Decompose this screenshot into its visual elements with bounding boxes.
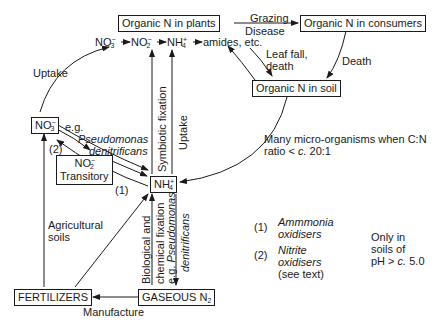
legend-2-line1: Nitrite [278,244,307,256]
uptake-left-label: Uptake [33,67,68,79]
eg-prefix: e.g. [165,263,177,284]
chain-amides: amides, etc. [203,36,262,48]
gaseous-n2-sub: 2 [207,297,211,304]
note-line1: Only in [371,231,405,243]
legend-1-line1: Ammmonia [278,216,334,228]
step-1-label: (1) [115,184,128,196]
ratio-value: 20:1 [307,145,331,157]
fertilizers-box: FERTILIZERS [14,289,92,306]
biological-fixation-line3: e.g. Pseudomonas [165,192,177,284]
note-line2: soils of [371,243,405,255]
legend-2-line3: (see text) [278,268,324,280]
organic-n-consumers-box: Organic N in consumers [300,15,426,32]
no3-sub: 3 [51,125,55,132]
nh4-sub: 4 [169,184,173,191]
organic-n-soil-label: Organic N in soil [256,82,337,94]
uptake-vertical-label: Uptake [177,115,189,150]
chain-no2-base: NO [131,36,148,48]
ratio-circa: c. [298,145,307,157]
legend-2-line2: oxidisers [278,256,321,268]
organic-n-consumers-label: Organic N in consumers [304,17,422,29]
ratio-prefix: ratio < [264,145,298,157]
ph-circa: c. [398,255,407,267]
legend-1-line2: oxidisers [278,228,321,240]
death-label: Death [342,55,371,67]
nh4-base: NH [154,178,170,190]
step-2-label: (2) [49,143,62,155]
micro-organisms-line2: ratio < c. 20:1 [264,145,331,157]
organic-n-soil-box: Organic N in soil [252,80,341,97]
legend-1-num: (1) [254,221,267,233]
symbiotic-fixation-label: Symbiotic fixation [156,86,168,172]
leaf-death-label: death [266,60,294,72]
legend-2-num: (2) [254,249,267,261]
gaseous-n2-base: GASEOUS N [142,291,207,303]
grazing-label: Grazing [250,12,289,24]
chain-nh4-base: NH [167,36,183,48]
no2-transitory-box: NO−2 Transitory [56,155,113,185]
plant-chain: NO−3 [95,36,115,48]
pseudomonas-label: Pseudomonas [78,133,148,145]
no2-base: NO [75,157,92,169]
fertilizers-label: FERTILIZERS [18,291,88,303]
disease-label: Disease [245,25,285,37]
chain-no3-sub: 3 [111,42,115,49]
organic-n-plants-label: Organic N in plants [122,17,216,29]
transitory-label: Transitory [60,170,109,183]
no2-sub: 2 [90,163,94,170]
nh4-box: NH+4 [150,176,177,193]
note-line3: pH > c. 5.0 [371,255,425,267]
chain-nh4-sub: 4 [182,42,186,49]
gaseous-n2-box: GASEOUS N2 [138,289,215,306]
micro-organisms-line1: Many micro-organisms when C:N [264,133,427,145]
no3-box: NO−3 [31,117,59,134]
chain-nh4: NH+4 [167,36,186,48]
soils-label: soils [48,231,70,243]
eg-label: e.g. [65,121,83,133]
chain-no2: NO−2 [131,36,151,48]
organic-n-plants-box: Organic N in plants [118,15,220,32]
no3-base: NO [35,119,52,131]
manufacture-label: Manufacture [83,306,144,318]
chain-no2-sub: 2 [147,42,151,49]
ph-prefix: pH > [371,255,398,267]
denitrificans-label: denitrificans [89,145,148,157]
denitrificans-vertical: denitrificans [179,213,191,272]
ph-value: 5.0 [406,255,424,267]
chain-no3-base: NO [95,36,112,48]
pseudomonas-vertical: Pseudomonas [165,192,177,262]
agricultural-label: Agricultural [48,219,103,231]
leaf-fall-label: Leaf fall, [266,48,308,60]
biological-fixation-line1: Biological and [140,216,152,285]
